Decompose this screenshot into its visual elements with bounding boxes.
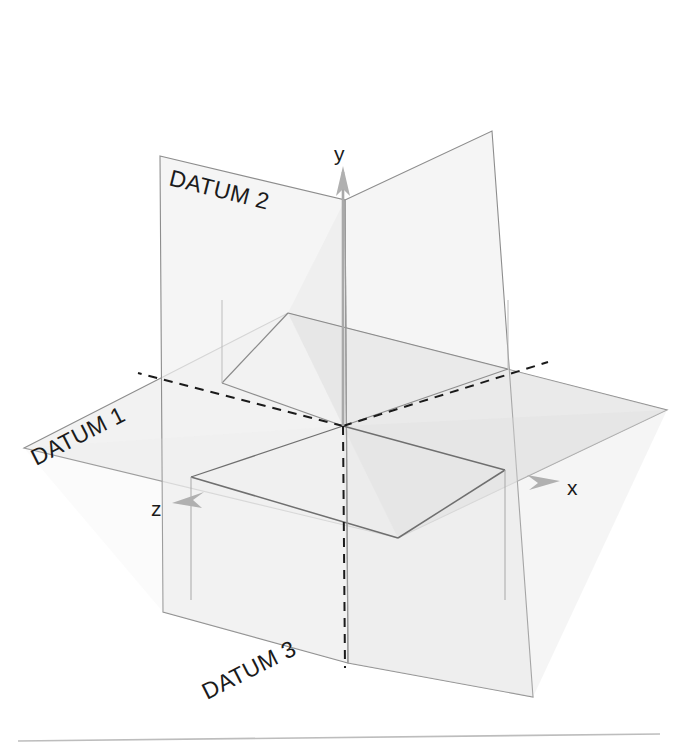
diagram-canvas: y x z DATUM 1 DATUM 2 DATUM 3	[0, 0, 700, 755]
datum-planes-diagram: y x z DATUM 1 DATUM 2 DATUM 3	[0, 0, 700, 755]
axis-z-label: z	[151, 497, 162, 520]
baseline-rule	[18, 734, 660, 741]
overlap-region-left	[24, 426, 348, 663]
axis-x-label: x	[567, 476, 578, 499]
axis-y-label: y	[334, 142, 345, 165]
datum-3-label: DATUM 3	[197, 635, 300, 704]
